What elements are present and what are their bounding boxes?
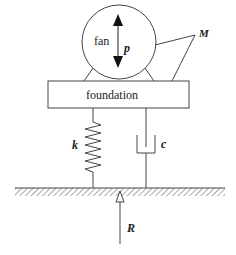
- mass-label: M: [198, 27, 210, 39]
- spring-label: k: [72, 138, 78, 152]
- spring-icon: [85, 108, 101, 188]
- foundation-label: foundation: [86, 88, 138, 102]
- damper-label: c: [161, 137, 167, 151]
- mass-leader-lines: [155, 35, 195, 81]
- damper-icon: [137, 108, 155, 188]
- fan-label: fan: [94, 34, 109, 48]
- force-label: p: [123, 41, 130, 55]
- fan-foundation-diagram: fan p M foundation k c R: [0, 0, 236, 255]
- reaction-arrow-icon: [116, 191, 124, 244]
- reaction-label: R: [126, 221, 135, 235]
